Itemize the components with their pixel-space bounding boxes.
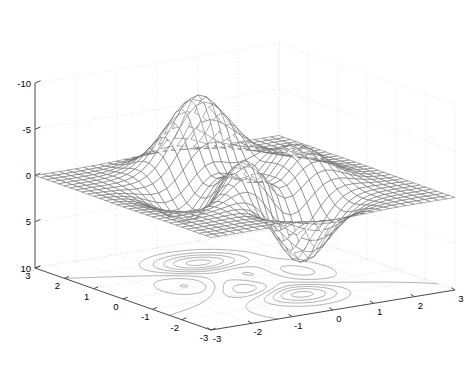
tick-label: 1 (84, 291, 89, 302)
tick-label: 0 (113, 301, 118, 312)
figure-canvas: 1050-5-103210-1-2-3-3-2-10123 (0, 0, 472, 369)
tick-label: 3 (25, 270, 30, 281)
tick-label: -2 (170, 322, 178, 333)
tick-label: -1 (294, 320, 302, 331)
tick-label: 5 (26, 216, 31, 227)
tick-label: 0 (26, 170, 31, 181)
surface-plot: 1050-5-103210-1-2-3-3-2-10123 (0, 0, 472, 369)
tick-label: -3 (213, 333, 221, 344)
tick-label: 2 (55, 280, 60, 291)
tick-label: -1 (141, 311, 149, 322)
tick-label: 1 (377, 306, 382, 317)
tick-label: 3 (458, 293, 463, 304)
tick-label: -5 (23, 124, 31, 135)
tick-label: 2 (418, 300, 423, 311)
tick-label: 0 (336, 313, 341, 324)
tick-label: -10 (17, 78, 31, 89)
tick-label: -3 (200, 332, 208, 343)
tick-label: -2 (253, 326, 261, 337)
